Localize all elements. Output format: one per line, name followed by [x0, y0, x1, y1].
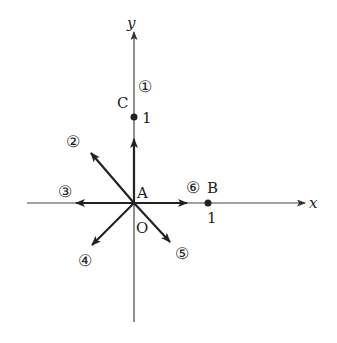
point-c-tick: 1	[142, 109, 152, 127]
vector-diagram: x y C 1 B 1 A O ① ② ③ ④ ⑤ ⑥	[0, 0, 337, 343]
vector-6-label: ⑥	[186, 178, 200, 197]
point-b	[205, 200, 212, 207]
y-axis-label: y	[126, 14, 136, 32]
vector-2	[91, 153, 134, 203]
vector-2-label: ②	[66, 132, 80, 151]
point-b-label: B	[207, 179, 218, 197]
x-axis-label: x	[309, 194, 318, 212]
point-c	[131, 114, 138, 121]
vector-3-label: ③	[58, 182, 72, 201]
vector-1-label: ①	[138, 77, 152, 96]
point-a-label: A	[136, 184, 148, 202]
vector-4-label: ④	[78, 251, 92, 270]
origin-label: O	[136, 219, 148, 237]
vector-5-label: ⑤	[175, 244, 189, 263]
point-c-label: C	[117, 94, 128, 112]
point-b-tick: 1	[207, 209, 217, 227]
vector-4	[92, 203, 134, 245]
